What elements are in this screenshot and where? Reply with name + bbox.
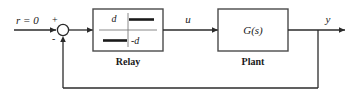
plant-block-caption: Plant [242,56,265,67]
control-signal-wire [163,27,218,33]
output-signal-wire [288,27,345,33]
plant-transfer-function-label: G(s) [243,24,263,37]
relay-input-arrow-head [87,27,93,33]
summing-junction-minus-sign: - [52,33,55,44]
error-signal-wire [69,27,93,33]
relay-amplitude-negative-label: -d [131,35,140,46]
output-arrow-head [339,27,345,33]
control-signal-label: u [185,13,191,25]
relay-feedback-block-diagram: r = 0 + - d -d Relay u [0,0,353,100]
output-signal-label: y [325,13,331,25]
summing-junction-plus-sign: + [52,14,58,25]
plant-input-arrow-head [212,27,218,33]
relay-block-caption: Relay [116,56,140,67]
reference-signal-label: r = 0 [16,14,39,26]
reference-input-wire [14,27,56,33]
summing-junction [57,24,68,35]
reference-arrow-head [50,27,56,33]
diagram-canvas: r = 0 + - d -d Relay u [0,0,353,100]
